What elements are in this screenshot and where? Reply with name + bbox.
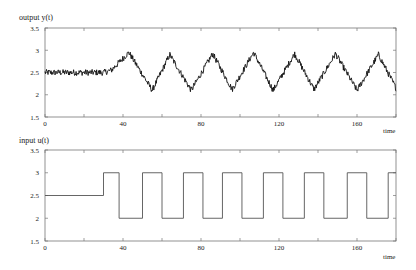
output-x-axis: 04080120160	[43, 28, 396, 128]
input-signal-line	[45, 173, 396, 219]
svg-text:2.5: 2.5	[30, 69, 39, 77]
svg-text:0: 0	[43, 120, 47, 128]
input-plot: input u(t) 1.522.533.5 04080120160 time	[19, 136, 396, 261]
figure: output y(t) 1.522.533.5 04080120160 time…	[0, 0, 416, 270]
input-x-label: time	[383, 253, 395, 261]
output-x-label: time	[383, 127, 395, 135]
svg-text:80: 80	[198, 120, 206, 128]
svg-text:80: 80	[198, 244, 206, 252]
output-plot-frame	[45, 28, 396, 117]
svg-text:2: 2	[36, 91, 40, 99]
svg-text:40: 40	[120, 244, 128, 252]
svg-text:3.5: 3.5	[30, 25, 39, 33]
input-y-axis: 1.522.533.5	[30, 147, 396, 246]
output-signal-line	[45, 52, 396, 92]
svg-text:160: 160	[352, 120, 363, 128]
input-x-axis: 04080120160	[43, 150, 396, 252]
svg-text:120: 120	[274, 120, 285, 128]
svg-text:3: 3	[36, 47, 40, 55]
svg-text:120: 120	[274, 244, 285, 252]
svg-text:2: 2	[36, 215, 40, 223]
svg-text:1.5: 1.5	[30, 238, 39, 246]
svg-text:0: 0	[43, 244, 47, 252]
output-plot: output y(t) 1.522.533.5 04080120160 time	[19, 13, 396, 135]
svg-text:3: 3	[36, 169, 40, 177]
svg-text:160: 160	[352, 244, 363, 252]
svg-text:2.5: 2.5	[30, 192, 39, 200]
output-axis-label: output y(t)	[19, 13, 53, 22]
svg-text:1.5: 1.5	[30, 114, 39, 122]
input-axis-label: input u(t)	[19, 136, 49, 145]
svg-text:3.5: 3.5	[30, 147, 39, 155]
svg-text:40: 40	[120, 120, 128, 128]
